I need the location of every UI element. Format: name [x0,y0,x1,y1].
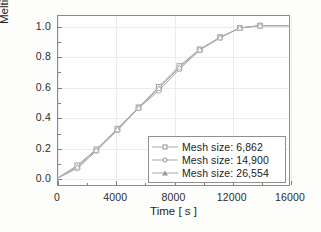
legend-label: Mesh size: 26,554 [182,167,269,179]
legend-item[interactable]: Mesh size: 6,862 [152,140,281,153]
y-tick-major [58,88,62,89]
melting-fraction-chart: Melting fraction Time [ s ] 0.00.20.40.6… [0,0,321,232]
y-tick-major [58,149,62,150]
legend-item[interactable]: Mesh size: 26,554 [152,166,281,179]
legend-item[interactable]: Mesh size: 14,900 [152,153,281,166]
x-tick-major [58,181,59,185]
y-tick-label: 0.2 [36,142,51,154]
legend-swatch-triangle [152,167,178,179]
y-tick-label: 0.6 [36,81,51,93]
x-tick-label: 8000 [161,191,185,203]
x-tick-label: 12000 [217,191,247,203]
legend-label: Mesh size: 6,862 [182,141,263,153]
gridline-horizontal [58,57,289,58]
x-tick-major [116,181,117,185]
gridline-horizontal [58,88,289,89]
legend-swatch-square [152,141,178,153]
y-tick-minor [58,42,61,43]
y-tick-label: 0.4 [36,111,51,123]
y-tick-minor [58,164,61,165]
y-tick-minor [58,103,61,104]
legend-label: Mesh size: 14,900 [182,154,269,166]
x-tick-minor [87,183,88,186]
gridline-vertical [116,16,117,185]
legend-swatch-circle [152,154,178,166]
y-tick-label: 0.0 [36,172,51,184]
y-tick-major [58,27,62,28]
gridline-horizontal [58,27,289,28]
y-tick-minor [58,72,61,73]
y-tick-major [58,57,62,58]
x-tick-minor [145,183,146,186]
y-tick-label: 0.8 [36,50,51,62]
y-tick-label: 1.0 [36,20,51,32]
gridline-vertical [291,16,292,185]
legend-box[interactable]: Mesh size: 6,862 Mesh size: 14,900 Mesh … [148,136,286,183]
x-tick-major [291,181,292,185]
y-tick-major [58,118,62,119]
x-tick-label: 0 [54,191,60,203]
x-axis-title: Time [ s ] [57,205,290,217]
gridline-horizontal [58,118,289,119]
y-tick-minor [58,134,61,135]
x-tick-label: 16000 [275,191,305,203]
y-axis-title: Melting fraction [0,0,10,40]
x-tick-label: 4000 [103,191,127,203]
